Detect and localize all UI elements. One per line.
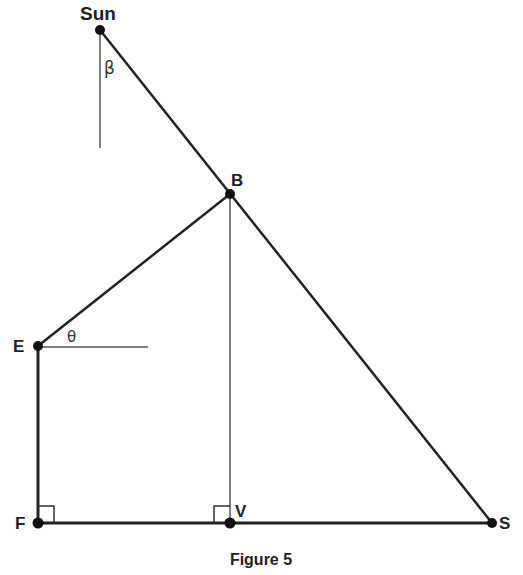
figure-diagram: Sun β B E θ F V S Figure 5 <box>0 0 523 575</box>
figure-caption: Figure 5 <box>230 551 292 568</box>
point-sun <box>95 25 105 35</box>
label-theta: θ <box>67 328 76 346</box>
label-sun: Sun <box>80 3 116 24</box>
sun-ray-line <box>100 30 492 523</box>
point-v <box>225 518 236 529</box>
label-b: B <box>231 171 243 190</box>
point-f <box>33 518 44 529</box>
label-e: E <box>13 337 24 356</box>
label-beta: β <box>104 58 115 78</box>
label-v: V <box>235 502 247 521</box>
point-s <box>487 518 497 528</box>
point-e <box>33 341 43 351</box>
label-f: F <box>15 514 25 533</box>
eb-line <box>38 194 230 346</box>
label-s: S <box>499 514 510 533</box>
point-b <box>225 189 235 199</box>
